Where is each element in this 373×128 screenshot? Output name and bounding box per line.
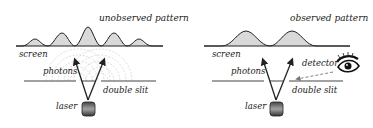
detector-label: detector — [302, 58, 339, 68]
screen-label: screen — [19, 49, 48, 59]
laser-icon — [270, 102, 283, 116]
left-panel-unobserved: unobserved pattern screen photons double… — [16, 13, 189, 116]
right-panel-observed: observed pattern screen photons detector… — [204, 13, 368, 116]
laser-label: laser — [56, 101, 78, 111]
eye-icon — [337, 52, 359, 72]
slit-label: double slit — [103, 85, 149, 95]
interference-pattern — [16, 27, 163, 46]
double-slit-diagram: unobserved pattern screen photons double… — [0, 0, 373, 128]
particle-pattern — [204, 31, 350, 46]
screen-label: screen — [212, 49, 241, 59]
photon-arrows — [75, 60, 104, 100]
pattern-title: observed pattern — [290, 13, 368, 23]
photons-label: photons — [231, 66, 266, 76]
pattern-title: unobserved pattern — [99, 13, 189, 23]
laser-icon — [82, 102, 95, 116]
interference-waves — [46, 49, 132, 81]
laser-label: laser — [245, 101, 267, 111]
photon-arrows — [263, 60, 292, 100]
slit-label: double slit — [292, 85, 338, 95]
detector-arrow — [297, 72, 333, 79]
photons-label: photons — [43, 66, 78, 76]
